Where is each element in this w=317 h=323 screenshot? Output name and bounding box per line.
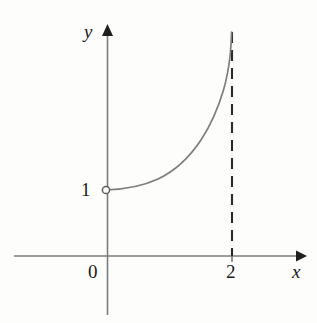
x-axis	[14, 251, 307, 262]
plot-canvas	[0, 0, 317, 323]
y-axis	[102, 24, 113, 315]
x-axis-label: x	[292, 262, 300, 281]
y-axis-arrowhead-icon	[102, 24, 113, 36]
open-circle-point-icon	[102, 186, 109, 193]
graph-figure: y x 0 1 2	[0, 0, 317, 323]
origin-label: 0	[88, 262, 98, 281]
y-tick-label-1: 1	[81, 180, 91, 199]
y-axis-label: y	[84, 22, 92, 41]
function-curve	[106, 32, 232, 190]
x-tick-label-2: 2	[226, 262, 236, 281]
x-axis-arrowhead-icon	[296, 251, 307, 262]
